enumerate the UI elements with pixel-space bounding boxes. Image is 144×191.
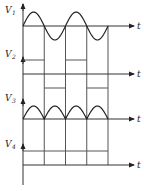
t-axis-label: t [137,69,141,79]
panel-v4: tV4 [5,139,141,170]
panel-v1: tV1 [5,4,141,40]
y-axis-label-subscript: 2 [11,53,16,60]
panel-v3: tV3 [5,93,141,124]
period-dividers [44,26,108,165]
y-axis-label-subscript: 1 [12,9,16,16]
waveform-diagram: tV1tV2tV3tV4 [0,0,144,191]
y-axis-label-subscript: 3 [12,97,16,104]
y-axis-label-subscript: 4 [11,143,16,150]
t-axis-label: t [137,21,141,31]
t-axis-label: t [137,160,141,170]
waveform-panels: tV1tV2tV3tV4 [5,4,141,170]
t-axis-label: t [137,114,141,124]
panel-v2: tV2 [5,49,141,88]
